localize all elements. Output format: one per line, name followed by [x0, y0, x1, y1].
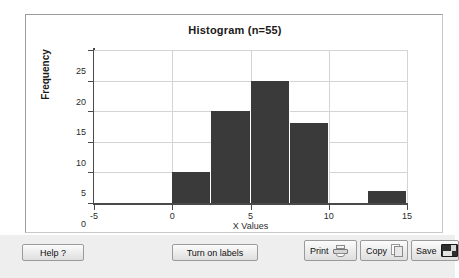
copy-button-label: Copy	[366, 246, 387, 256]
x-axis-title: X Values	[94, 221, 407, 231]
x-axis-tick	[251, 205, 252, 210]
y-axis-tick-label: 0	[46, 220, 86, 229]
plot-area	[94, 50, 407, 203]
x-axis-tick	[172, 205, 173, 210]
y-axis-tick	[88, 81, 93, 82]
y-axis-tick	[88, 172, 93, 173]
x-axis-tick-label: 10	[309, 211, 349, 221]
save-button[interactable]: Save	[411, 240, 459, 261]
x-axis-tick-label: 0	[152, 211, 192, 221]
x-axis-tick	[94, 205, 95, 210]
x-axis-tick-label: 5	[231, 211, 271, 221]
y-axis-tick	[88, 50, 93, 51]
y-axis-tick-label: 25	[46, 67, 86, 76]
x-axis-tick	[329, 205, 330, 210]
x-axis-tick	[407, 205, 408, 210]
y-axis-tick	[88, 203, 93, 204]
x-axis-tick-label: -5	[74, 211, 114, 221]
print-button[interactable]: Print	[304, 240, 357, 261]
print-button-label: Print	[310, 246, 329, 256]
histogram-bar	[290, 123, 329, 203]
y-axis-tick	[88, 142, 93, 143]
histogram-bar	[368, 191, 407, 203]
gridline-vertical	[407, 50, 408, 203]
x-axis-tick-label: 15	[387, 211, 427, 221]
help-button[interactable]: Help ?	[22, 244, 84, 261]
save-button-label: Save	[416, 246, 437, 256]
chart-panel: Histogram (n=55) Frequency 0510152025 -5…	[25, 14, 443, 233]
histogram-bar	[172, 172, 211, 203]
histogram-bar	[211, 111, 250, 203]
histogram-bar	[251, 81, 290, 203]
toolbar-divider	[0, 234, 455, 235]
y-axis-tick-label: 20	[46, 98, 86, 107]
help-button-label: Help ?	[40, 248, 66, 258]
turn-on-labels-button[interactable]: Turn on labels	[172, 244, 258, 261]
gridline-vertical	[329, 50, 330, 203]
copy-pages-icon	[391, 244, 404, 257]
turn-on-labels-button-label: Turn on labels	[187, 248, 244, 258]
y-axis-tick-label: 15	[46, 128, 86, 137]
y-axis-tick	[88, 111, 93, 112]
save-disk-icon	[441, 244, 458, 257]
printer-icon	[333, 245, 348, 257]
y-axis-tick-label: 10	[46, 159, 86, 168]
copy-button[interactable]: Copy	[360, 240, 408, 261]
y-axis-tick-label: 5	[46, 189, 86, 198]
chart-title: Histogram (n=55)	[26, 24, 444, 36]
y-axis-tick-labels: 0510152025	[42, 43, 86, 208]
